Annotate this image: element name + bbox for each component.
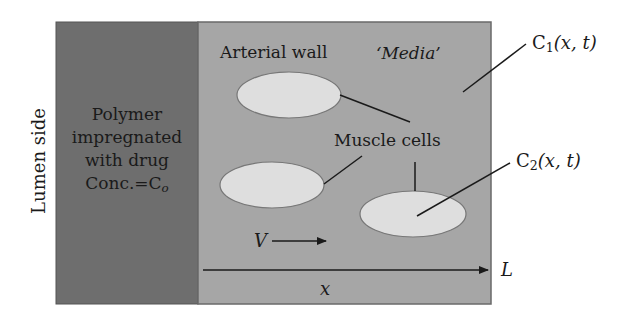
c2-args: (x, t) <box>538 150 581 171</box>
media-layer <box>198 22 491 304</box>
polymer-label-line4: Conc.=Co <box>58 172 196 200</box>
c1-symbol: C <box>532 32 546 53</box>
conc-prefix: Conc.=C <box>85 173 161 193</box>
media-label: ‘Media’ <box>376 45 441 62</box>
polymer-label-line1: Polymer <box>58 103 196 126</box>
c2-symbol: C <box>516 150 530 171</box>
lumen-side-label: Lumen side <box>28 108 49 214</box>
axis-end-label: L <box>501 261 513 279</box>
conc-subscript: o <box>162 181 169 195</box>
muscle-cell-top <box>237 72 341 118</box>
muscle-cell-left <box>220 162 324 208</box>
c1-label: C1(x, t) <box>532 34 597 55</box>
velocity-label: V <box>254 232 267 250</box>
muscle-cells-label: Muscle cells <box>334 132 441 149</box>
polymer-label: Polymer impregnated with drug Conc.=Co <box>58 103 196 200</box>
polymer-label-line3: with drug <box>58 149 196 172</box>
c1-subscript: 1 <box>546 40 554 55</box>
c1-args: (x, t) <box>554 32 597 53</box>
c2-subscript: 2 <box>530 158 538 173</box>
axis-variable-label: x <box>320 280 330 298</box>
c2-label: C2(x, t) <box>516 152 581 173</box>
diagram: Lumen side Polymer impregnated with drug… <box>0 0 623 318</box>
polymer-label-line2: impregnated <box>58 126 196 149</box>
arterial-wall-label: Arterial wall <box>220 44 327 61</box>
